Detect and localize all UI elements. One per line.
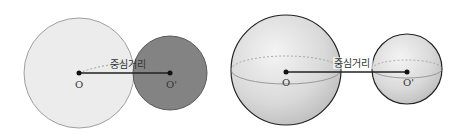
center-point-o-prime bbox=[168, 71, 173, 76]
left-figure-circles: 중심거리 O O' bbox=[24, 18, 207, 128]
center-point-o-prime bbox=[405, 70, 410, 75]
center-distance-diagram: 중심거리 O O' 중심거리 O O' bbox=[0, 0, 467, 139]
center-point-o bbox=[284, 70, 289, 75]
center-distance-label: 중심거리 bbox=[110, 59, 146, 70]
center-point-o bbox=[77, 71, 82, 76]
right-figure-spheres: 중심거리 O O' bbox=[231, 15, 442, 125]
label-o: O bbox=[282, 77, 290, 88]
center-distance-label: 중심거리 bbox=[334, 58, 370, 69]
label-o-prime: O' bbox=[403, 77, 414, 88]
label-o: O bbox=[75, 79, 83, 90]
label-o-prime: O' bbox=[166, 79, 177, 90]
small-sphere bbox=[372, 34, 442, 104]
